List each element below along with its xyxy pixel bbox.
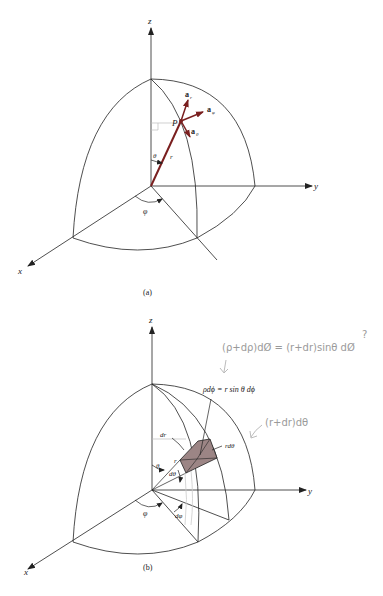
handwritten-arrow-top [220, 360, 228, 373]
figure-a: z y x P r a r a φ a θ [17, 16, 318, 297]
svg-text:a: a [185, 90, 189, 99]
figure-b: z y x ρdϕ = r sin θ dϕ rdθ [23, 315, 367, 577]
guide-arc-2 [191, 470, 193, 525]
handwritten-note-top: (ρ+dρ)dØ = (r+dr)sinθ dØ [222, 342, 355, 353]
phi-line-2 [152, 490, 229, 520]
octant-arc-zx [73, 79, 151, 238]
ar-label: a r [185, 90, 192, 100]
point-p-label: P [171, 118, 178, 128]
y-axis-label: y [307, 486, 312, 496]
dr-label: dr [160, 431, 167, 439]
dtheta-label: dθ [169, 470, 177, 478]
volume-element [180, 439, 217, 473]
phi-arc [135, 196, 162, 202]
handwritten-note-side: (r+dr)dθ [265, 417, 308, 428]
svg-text:a: a [191, 127, 195, 136]
radius-label: r [170, 153, 173, 161]
octant-arc-xy [73, 186, 255, 250]
aphi-label: a φ [207, 105, 215, 115]
z-axis-label: z [148, 315, 153, 325]
phi-label: φ [143, 207, 148, 216]
x-axis-label: x [23, 567, 28, 577]
svg-text:a: a [207, 105, 211, 114]
x-axis [28, 186, 151, 266]
phi-projection-line [151, 186, 217, 260]
svg-text:r: r [190, 95, 192, 100]
dphi-label: dφ [175, 512, 183, 520]
z-axis-label: z [147, 16, 152, 26]
figure-a-caption: (a) [143, 288, 152, 297]
dphi-arc [174, 504, 182, 512]
figure-b-caption: (b) [143, 563, 153, 572]
dr-leader [172, 438, 184, 450]
spherical-coordinates-diagram: z y x P r a r a φ a θ [0, 0, 383, 596]
rdtheta-label: rdθ [225, 442, 235, 450]
x-axis-label: x [17, 266, 22, 276]
handwritten-question-mark: ? [362, 329, 367, 340]
octant-arc-zx [73, 384, 152, 542]
y-axis-label: y [313, 181, 318, 191]
handwritten-arrow-side [250, 425, 262, 438]
guide-arc-1 [185, 473, 187, 525]
theta-arc [151, 160, 162, 163]
octant-arc-xy [73, 490, 255, 554]
svg-text:φ: φ [212, 110, 215, 115]
rho-dphi-label: ρdϕ = r sin θ dϕ [202, 385, 255, 394]
meridian-arc [151, 79, 197, 238]
r-label: r [174, 457, 177, 465]
atheta-label: a θ [191, 127, 199, 137]
phi-label: φ [143, 509, 148, 518]
svg-text:θ: θ [196, 132, 199, 137]
phi-arc [135, 500, 162, 507]
x-axis [28, 490, 152, 569]
theta-label: θ [153, 152, 157, 160]
dtheta-arc [178, 470, 180, 482]
octant-arc-zy [151, 79, 255, 186]
